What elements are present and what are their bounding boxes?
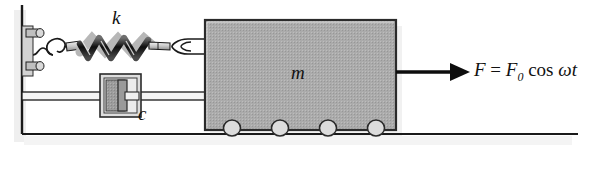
- force-arrow-right: [396, 63, 470, 81]
- force-symbol-F: F: [474, 59, 486, 80]
- spring-right-coupler: [149, 42, 170, 50]
- wheel: [368, 120, 385, 136]
- wheel: [224, 120, 241, 136]
- force-equation-label: F = F0 cos ωt: [474, 60, 577, 83]
- diagram-canvas: [0, 0, 590, 172]
- viscous-damper-dashpot: [100, 74, 141, 117]
- damper-rod-left: [22, 92, 102, 100]
- wall-bracket-bolts: [22, 26, 44, 76]
- force-amplitude-F0: F: [506, 59, 518, 80]
- eye-bolt-loop: [172, 39, 206, 54]
- helical-coil-spring: [66, 38, 170, 58]
- equals-sign: =: [490, 59, 501, 80]
- spring-stiffness-label: k: [112, 8, 120, 27]
- wheel: [320, 120, 337, 136]
- wheel: [272, 120, 289, 136]
- mass-label: m: [291, 63, 305, 82]
- time-variable-t: t: [572, 59, 577, 80]
- damping-coefficient-label: c: [138, 104, 146, 123]
- cosine-function: cos: [528, 59, 553, 80]
- spring-mass-damper-diagram: k c m F = F0 cos ωt: [0, 0, 590, 172]
- omega-symbol: ω: [558, 59, 571, 80]
